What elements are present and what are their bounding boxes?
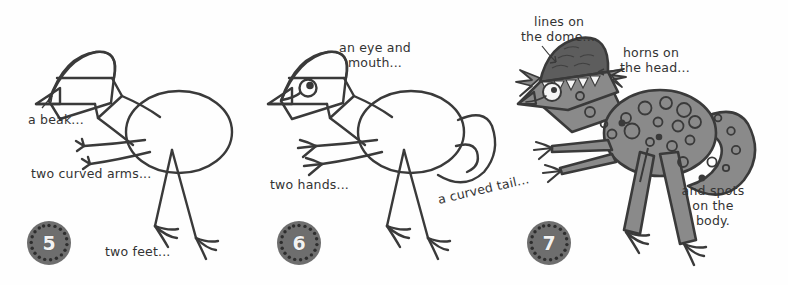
caption-a-beak: a beak... xyxy=(28,112,84,127)
caption-lines-on: lines on xyxy=(534,14,584,29)
caption-an-eye-and: an eye and xyxy=(325,40,425,55)
neck-upper-line xyxy=(122,96,160,117)
body-oval xyxy=(126,91,232,173)
foot-front xyxy=(387,226,410,247)
caption-on-the: on the xyxy=(668,198,758,213)
step-badge-5: 5 xyxy=(27,221,71,265)
caption-and-spots: and spots xyxy=(668,183,758,198)
step-number-7: 7 xyxy=(542,234,555,253)
leg-back xyxy=(172,150,196,238)
head-dome-line xyxy=(49,52,115,119)
step-number-6: 6 xyxy=(292,234,305,253)
caption-horns-on: horns on xyxy=(623,45,679,60)
step-number-5: 5 xyxy=(42,234,55,253)
neck-upper-line xyxy=(354,96,392,117)
leg-front xyxy=(387,150,404,226)
caption-two-feet: two feet... xyxy=(105,244,171,259)
eye-pupil xyxy=(307,83,312,88)
arm-lower xyxy=(322,152,382,164)
step-panel-7: lines on the dome... horns on the head..… xyxy=(512,0,788,285)
arm-upper xyxy=(84,140,145,146)
step-panel-5: a beak... two curved arms... two feet... xyxy=(0,0,263,285)
hand-upper xyxy=(298,140,316,157)
arm-lower xyxy=(90,152,150,164)
head-back-line xyxy=(95,78,122,118)
caption-two-curved-arms: two curved arms... xyxy=(31,166,151,181)
arm-lower-shape xyxy=(560,154,616,174)
step-badge-7: 7 xyxy=(527,221,571,265)
step-panel-6: an eye and mouth... two hands... a curve… xyxy=(252,0,522,285)
foot-back xyxy=(196,238,218,259)
arm-upper-shape xyxy=(552,140,612,152)
eye-pupil xyxy=(551,87,557,93)
arm-upper xyxy=(316,140,377,146)
step-badge-6: 6 xyxy=(277,221,321,265)
leg-back xyxy=(404,150,428,238)
leg-front xyxy=(155,150,172,226)
body-oval xyxy=(358,91,464,173)
illustration-page: a beak... two curved arms... two feet... xyxy=(0,0,788,285)
caption-the-dome: the dome... xyxy=(521,29,595,44)
caption-mouth: mouth... xyxy=(325,55,425,70)
caption-body: body. xyxy=(668,213,758,228)
foot-back xyxy=(428,238,450,259)
caption-the-head: the head... xyxy=(620,60,690,75)
head-back-line xyxy=(327,78,354,118)
hand-lower xyxy=(304,158,322,175)
arm-upper-tip xyxy=(76,139,84,151)
caption-two-hands: two hands... xyxy=(270,177,349,192)
